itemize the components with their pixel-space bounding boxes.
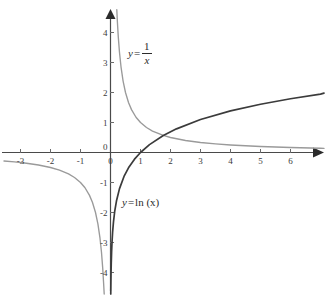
origin-label: 0 xyxy=(103,142,108,151)
label-natural-log-equals: = xyxy=(127,196,135,208)
y-tick-label--4: -4 xyxy=(100,268,108,277)
x-tick-label-1: 1 xyxy=(138,157,143,166)
y-tick-label-1: 1 xyxy=(103,118,108,127)
x-tick-label--3: -3 xyxy=(17,157,25,166)
y-axis-arrowhead xyxy=(106,9,116,19)
label-reciprocal-equals: = xyxy=(133,47,141,59)
x-tick-label-4: 4 xyxy=(228,157,233,166)
label-reciprocal: y=1x xyxy=(128,42,153,67)
fraction-numerator: 1 xyxy=(142,41,152,53)
label-natural-log: y=ln (x) xyxy=(122,197,159,208)
curve-natural-log xyxy=(111,93,324,294)
x-tick-label--2: -2 xyxy=(47,157,55,166)
x-tick-label-5: 5 xyxy=(258,157,263,166)
plot-area xyxy=(0,0,330,299)
label-reciprocal-fraction: 1x xyxy=(142,41,152,66)
fraction-denominator: x xyxy=(142,54,152,67)
y-tick-label-4: 4 xyxy=(103,28,108,37)
y-tick-label--3: -3 xyxy=(100,238,108,247)
x-tick-label--1: -1 xyxy=(77,157,85,166)
function-graph-figure: -3-2-10123456-4-3-2-112340 y=1x y=ln (x) xyxy=(0,0,330,299)
x-tick-label-2: 2 xyxy=(168,157,173,166)
y-tick-label-2: 2 xyxy=(103,88,108,97)
y-tick-label-3: 3 xyxy=(103,58,108,67)
x-tick-label-3: 3 xyxy=(198,157,203,166)
curve-reciprocal-left xyxy=(4,161,104,294)
y-tick-label--2: -2 xyxy=(100,208,108,217)
y-tick-label--1: -1 xyxy=(100,178,108,187)
x-axis-arrowhead xyxy=(313,148,324,158)
curve-reciprocal-right xyxy=(117,10,324,149)
x-tick-label-6: 6 xyxy=(288,157,293,166)
label-natural-log-rhs: ln (x) xyxy=(135,196,159,208)
x-tick-label-0: 0 xyxy=(108,157,113,166)
series-paths xyxy=(4,10,324,294)
